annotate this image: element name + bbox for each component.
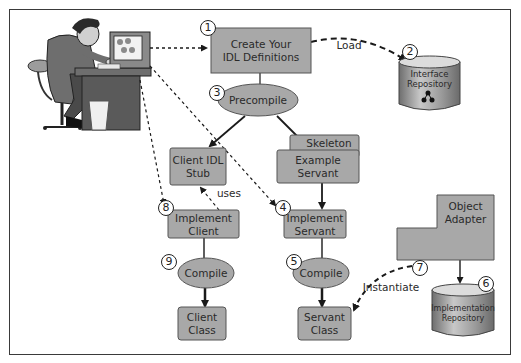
create-idl-line2: IDL Definitions <box>223 51 300 64</box>
interface-repository-label: Interface Repository <box>399 68 460 90</box>
implement-client-label: Implement Client <box>168 211 239 238</box>
object-adapter-label: Object Adapter <box>437 200 494 226</box>
example-servant-line1: Example <box>295 154 341 167</box>
implement-client-line1: Implement <box>175 212 232 225</box>
client-class-line1: Client <box>187 311 217 324</box>
client-stub-label: Client IDL Stub <box>170 150 226 184</box>
client-class-line2: Class <box>188 324 216 337</box>
step-7-badge: 7 <box>412 260 428 276</box>
interface-repository-line1: Interface <box>410 69 448 79</box>
developer-illustration-icon <box>28 18 151 130</box>
implement-servant-line2: Servant <box>295 225 336 238</box>
example-servant-label: Example Servant <box>277 151 359 182</box>
impl-repository-label: Implementation Repository <box>430 303 496 325</box>
step-5-badge: 5 <box>286 254 302 270</box>
implement-client-line2: Client <box>188 225 218 238</box>
client-stub-line2: Stub <box>186 167 210 180</box>
object-adapter-line2: Adapter <box>445 213 487 226</box>
step-9-badge: 9 <box>161 254 177 270</box>
load-label: Load <box>332 38 366 52</box>
step-8-badge: 8 <box>158 200 174 216</box>
uses-label: uses <box>212 186 246 200</box>
servant-class-line2: Class <box>311 324 339 337</box>
step-1-badge: 1 <box>200 20 216 36</box>
create-idl-line1: Create Your <box>231 38 292 51</box>
step-6-badge: 6 <box>478 276 494 292</box>
step-4-badge: 4 <box>275 200 291 216</box>
create-idl-label: Create Your IDL Definitions <box>211 30 311 72</box>
example-servant-line2: Servant <box>298 167 339 180</box>
implement-servant-line1: Implement <box>287 212 344 225</box>
edge-developer-to-implement-client <box>140 80 164 204</box>
interface-repository-line2: Repository <box>407 79 452 89</box>
step-3-badge: 3 <box>209 85 225 101</box>
instantiate-label: Instantiate <box>360 280 422 294</box>
compile-client-label: Compile <box>178 266 234 281</box>
servant-class-label: Servant Class <box>298 308 351 339</box>
impl-repository-line2: Repository <box>442 314 485 324</box>
edge-precompile-to-stub <box>210 116 245 146</box>
client-stub-line1: Client IDL <box>173 154 224 167</box>
step-2-badge: 2 <box>402 44 418 60</box>
compile-servant-label: Compile <box>293 266 349 281</box>
servant-class-line1: Servant <box>304 311 345 324</box>
object-adapter-line1: Object <box>448 200 482 213</box>
impl-repository-line1: Implementation <box>431 304 495 314</box>
implement-servant-label: Implement Servant <box>284 211 346 238</box>
precompile-label: Precompile <box>218 92 298 108</box>
skeleton-label: Skeleton <box>300 136 358 150</box>
client-class-label: Client Class <box>178 308 226 339</box>
